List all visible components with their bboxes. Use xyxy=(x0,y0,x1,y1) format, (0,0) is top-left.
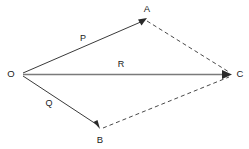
vertex-label-b: B xyxy=(97,134,103,145)
vector-diagram-canvas: O A B C P Q R xyxy=(0,0,249,149)
construction-line-b-to-c xyxy=(103,77,229,128)
vector-q-line xyxy=(23,76,96,124)
vector-p-arrowhead xyxy=(138,18,147,26)
vector-p-line xyxy=(23,21,143,73)
vertex-label-a: A xyxy=(144,3,151,14)
vector-label-r: R xyxy=(118,59,125,69)
vector-diagram-svg: O A B C P Q R xyxy=(0,0,249,149)
vector-label-p: P xyxy=(80,33,86,43)
vertex-label-c: C xyxy=(237,68,244,79)
construction-line-a-to-c xyxy=(147,21,229,72)
vertex-label-o: O xyxy=(7,68,14,79)
vector-label-q: Q xyxy=(45,98,52,108)
vector-q-arrowhead xyxy=(94,120,101,129)
